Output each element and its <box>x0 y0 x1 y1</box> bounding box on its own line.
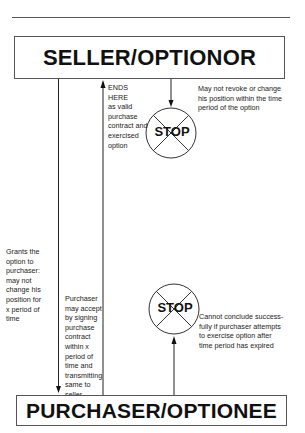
ends-here-note: ENDS HERE as valid purchase contract and… <box>108 83 168 150</box>
purchaser-optionee-box: PURCHASER/OPTIONEE <box>16 395 287 426</box>
expired-note: Cannot conclude success- fully if purcha… <box>199 312 304 350</box>
stop-bottom-label: STOP <box>153 300 197 315</box>
revoke-note: May not revoke or change his position wi… <box>198 84 303 113</box>
purchaser-optionee-label: PURCHASER/OPTIONEE <box>26 399 277 423</box>
connector-lines <box>0 0 305 433</box>
grant-note: Grants the option to purchaser: may not … <box>6 247 58 324</box>
purchaser-accept-note: Purchaser may accept by signing purchase… <box>65 294 105 400</box>
